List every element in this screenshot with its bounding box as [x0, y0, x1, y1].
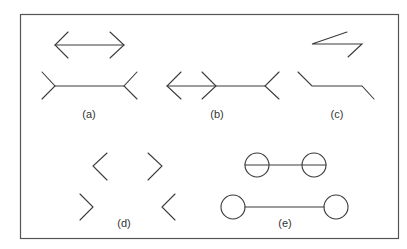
label-e: (e) [278, 218, 291, 229]
panel-b-combined-line [167, 72, 279, 99]
panel-c-zigzag [298, 32, 374, 99]
label-c: (c) [331, 109, 344, 120]
panel-e-circles [221, 153, 348, 219]
panel-a-arrow-line [55, 32, 124, 58]
figure-frame [21, 15, 399, 239]
label-d: (d) [117, 218, 130, 229]
panel-a-fin-line [42, 72, 137, 99]
label-b: (b) [210, 109, 223, 120]
illusion-figure [0, 0, 407, 249]
panel-d-angles [80, 153, 175, 220]
label-a: (a) [82, 109, 95, 120]
